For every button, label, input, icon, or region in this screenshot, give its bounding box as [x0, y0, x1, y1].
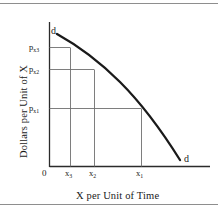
origin-label: 0: [42, 169, 47, 178]
y-tick-sub-px1: x1: [33, 108, 39, 114]
y-tick-label-px3: px3: [29, 43, 39, 52]
curve-label-bottom: d: [184, 154, 189, 164]
figure-container: Dollars per Unit of X X per Unit of Time…: [0, 0, 218, 219]
demand-curve-path: [57, 34, 180, 160]
curve-label-top: d: [51, 26, 56, 36]
x-axis-title: X per Unit of Time: [76, 191, 159, 202]
x-tick-sub-x2: 2: [93, 173, 96, 179]
y-tick-sub-px3: x3: [33, 47, 39, 53]
x-tick-sub-x1: 1: [140, 173, 143, 179]
x-tick-label-x3: x3: [65, 169, 72, 178]
y-axis-title: Dollars per Unit of X: [19, 65, 30, 158]
x-tick-label-x1: x1: [136, 169, 143, 178]
y-tick-label-px2: px2: [29, 65, 39, 74]
x-tick-label-x2: x2: [89, 169, 96, 178]
y-tick-label-px1: px1: [29, 104, 39, 113]
y-tick-sub-px2: x2: [33, 69, 39, 75]
x-tick-sub-x3: 3: [69, 173, 72, 179]
